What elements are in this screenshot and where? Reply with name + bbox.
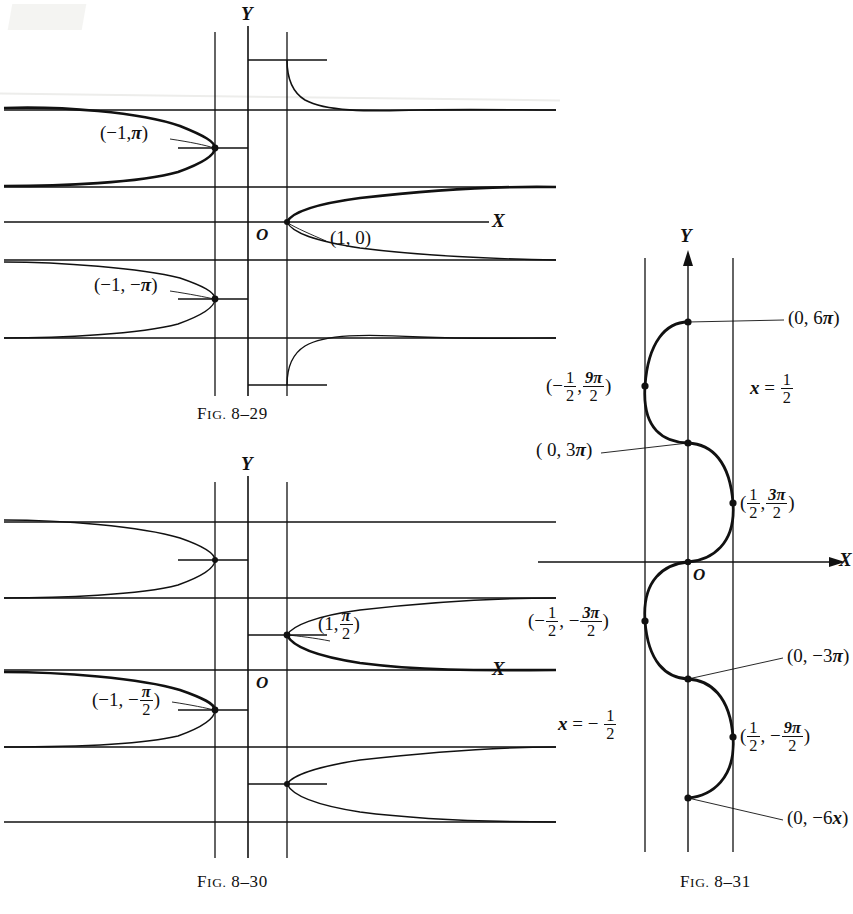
fig-8-29-label-point-neg1-negpi: (−1, −π) [94,275,157,294]
fig-8-31-origin-label: O [693,566,705,583]
pi-glyph: π [141,274,151,295]
label-text-close: ) [605,375,611,396]
label-text-close: ) [833,307,839,328]
label-text-open: (− [528,610,545,631]
marker-neghalf-9pi-over-2 [641,382,648,389]
caption-prefix: F [680,872,690,891]
pi-glyph: x [833,807,843,828]
figure-8-29-caption: FIG. 8–29 [197,404,268,424]
fig-8-31-label-point-half-neg9pi-over-2: (12, −9π2) [740,720,810,755]
fraction-denominator: 2 [781,388,793,406]
leader-line-1-0 [288,223,326,241]
fraction-denominator: 2 [747,736,759,754]
fraction-numerator: 9π [782,719,803,736]
fraction-numerator: 1 [781,371,793,388]
figure-8-29-svg [0,0,560,450]
label-text-close: ) [154,689,160,710]
fig-8-30-label-point-1-pi-over-2: (1,π2) [318,608,360,643]
fig-8-31-label-point-neghalf-neg3pi-over-2: (−12, −3π2) [528,605,609,640]
fraction-denominator: 2 [747,503,759,521]
label-text-close: ) [843,645,849,666]
fig-8-31-label-point-0-neg6pi: (0, −6x) [787,808,848,827]
label-text: (0, −6 [787,807,833,828]
caption-prefix: F [197,872,207,891]
label-text-open: ( [740,725,746,746]
marker-half-neg9pi-over-2 [729,733,736,740]
label-text: (1, 0) [330,227,371,248]
fraction-denominator: 2 [580,621,601,639]
leader-0-6pi [688,320,784,322]
label-text: (0, −3 [787,645,833,666]
fraction-denominator: 2 [766,503,787,521]
fraction-numerator: 9π [583,369,604,386]
label-text-close: ) [603,610,609,631]
label-text-close: ) [151,274,157,295]
marker-origin [685,559,691,565]
figure-8-31-caption: FIG. 8–31 [680,872,751,892]
label-text-mid: , − [761,725,781,746]
caption-smallcaps: IG. [690,875,709,890]
fraction-3pi-over-2: 3π2 [580,604,601,639]
pi-glyph: π [576,439,586,460]
label-text-open: (−1, − [92,689,139,710]
fig-8-31-label-point-0-6pi: (0, 6π) [788,308,840,327]
leader-0-neg6pi [688,798,783,820]
curve-branch-neg1-pi [4,108,215,186]
fig-8-29-origin-label: O [256,226,268,243]
fig-8-30-x-axis-label: X [492,659,505,678]
fraction-denominator: 2 [583,386,604,404]
figure-8-31: Y X O (0, 6π) (−12,9π2) x = 12 ( 0, 3π) … [540,230,853,914]
label-text-mid: , [577,375,582,396]
fig-8-31-label-line-x-equals-neg-half: x = − 12 [558,708,617,743]
equals-sign: = − [572,713,598,734]
fraction-one-half: 12 [564,369,576,404]
fig-8-31-label-point-0-3pi: ( 0, 3π) [536,440,592,459]
fraction-numerator: 1 [747,486,759,503]
fraction-pi-over-2: π2 [340,607,353,642]
label-text-open: ( [740,492,746,513]
pi-glyph: π [131,122,141,143]
fig-8-31-label-line-x-equals-half: x = 12 [750,372,794,407]
fraction-numerator: π [140,683,153,700]
figure-8-30-caption: FIG. 8–30 [197,872,268,892]
fig-8-31-label-point-0-neg3pi: (0, −3π) [787,646,849,665]
label-text-close: ) [804,725,810,746]
marker-half-3pi-over-2 [729,499,736,506]
y-axis-arrowhead [683,250,693,266]
pi-glyph: π [833,645,843,666]
fraction-one-half: 12 [604,707,616,742]
label-text: (0, 6 [788,307,823,328]
label-text: ( 0, 3 [536,439,576,460]
marker-topleft [212,557,218,563]
fraction-one-half: 12 [546,604,558,639]
caption-smallcaps: IG. [207,407,226,422]
curve-branch-topleft-upper [4,520,215,560]
marker-bottomright [284,781,290,787]
caption-smallcaps: IG. [207,875,226,890]
fraction-one-half: 12 [747,486,759,521]
variable-x: x [558,713,568,734]
label-text-close: ) [788,492,794,513]
pi-glyph: π [823,307,833,328]
figure-8-31-svg [540,230,853,890]
fig-8-31-label-point-half-3pi-over-2: (12,3π2) [740,487,795,522]
fraction-numerator: 3π [580,604,601,621]
equals-sign: = [764,377,775,398]
fig-8-29-x-axis-label: X [492,211,505,230]
fraction-denominator: 2 [546,621,558,639]
curve-branch-bottomright-lower [287,784,556,822]
fraction-numerator: 1 [546,604,558,621]
fraction-9pi-over-2: 9π2 [583,369,604,404]
fraction-denominator: 2 [340,624,353,642]
fraction-numerator: 1 [564,369,576,386]
fraction-denominator: 2 [564,386,576,404]
fig-8-29-label-point-neg1-pi: (−1,π) [100,123,148,142]
leader-line-neg1-negpi [170,291,214,299]
label-text-open: (−1, − [94,274,141,295]
fraction-denominator: 2 [604,724,616,742]
fig-8-30-origin-label: O [256,674,268,691]
label-text-open: (− [546,375,563,396]
curve-branch-topleft-lower [4,560,215,598]
caption-number: 8–30 [231,872,267,891]
fraction-denominator: 2 [140,700,153,718]
